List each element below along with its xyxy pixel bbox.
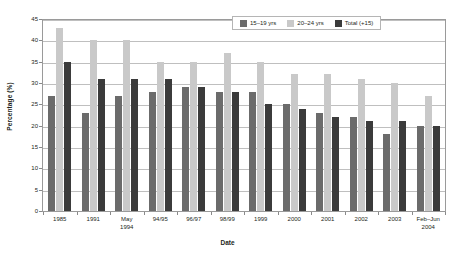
bar-group xyxy=(77,20,111,211)
bar xyxy=(56,28,63,211)
bars-layer xyxy=(43,20,445,211)
y-tick-label: 40 xyxy=(16,37,38,43)
bar xyxy=(190,62,197,211)
y-tick-label: 0 xyxy=(16,208,38,214)
y-tick-label: 25 xyxy=(16,101,38,107)
y-tick-label: 15 xyxy=(16,144,38,150)
y-tick-label: 20 xyxy=(16,123,38,129)
chart-legend: 15–19 yrs20–24 yrsTotal (+15) xyxy=(232,16,381,30)
bar-group xyxy=(177,20,211,211)
bar xyxy=(157,62,164,211)
bar xyxy=(316,113,323,211)
x-tick-mark xyxy=(311,212,312,215)
bar-group xyxy=(378,20,412,211)
bar xyxy=(224,53,231,211)
bar xyxy=(82,113,89,211)
bar xyxy=(291,74,298,211)
bar xyxy=(358,79,365,211)
y-tick-label: 45 xyxy=(16,16,38,22)
x-tick-mark xyxy=(211,212,212,215)
bar xyxy=(383,134,390,211)
x-tick-mark xyxy=(412,212,413,215)
x-tick-mark xyxy=(345,212,346,215)
bar-group xyxy=(144,20,178,211)
legend-label: Total (+15) xyxy=(345,20,374,26)
bar xyxy=(366,121,373,211)
x-tick-mark xyxy=(43,212,44,215)
bar xyxy=(232,92,239,211)
x-tick-mark xyxy=(77,212,78,215)
y-axis-title: Percentage (%) xyxy=(2,0,16,212)
legend-item: Total (+15) xyxy=(335,20,374,27)
legend-swatch-icon xyxy=(335,20,342,27)
bar xyxy=(350,117,357,211)
y-tick-label: 35 xyxy=(16,59,38,65)
bar xyxy=(391,83,398,211)
bar xyxy=(216,92,223,211)
bar xyxy=(98,79,105,211)
bar xyxy=(283,104,290,211)
bar xyxy=(425,96,432,211)
bar xyxy=(299,109,306,211)
bar xyxy=(149,92,156,211)
bar xyxy=(123,40,130,211)
x-tick-mark xyxy=(244,212,245,215)
bar-group xyxy=(311,20,345,211)
legend-label: 20–24 yrs xyxy=(297,20,323,26)
bar xyxy=(198,87,205,211)
bar xyxy=(257,62,264,211)
bar xyxy=(265,104,272,211)
bar xyxy=(332,117,339,211)
x-tick-mark xyxy=(144,212,145,215)
bar xyxy=(182,87,189,211)
bar xyxy=(165,79,172,211)
x-tick-mark xyxy=(445,212,446,215)
x-tick-label: Feb–Jun2004 xyxy=(398,216,455,231)
y-tick-label: 10 xyxy=(16,165,38,171)
bar xyxy=(131,79,138,211)
legend-swatch-icon xyxy=(287,20,294,27)
bar xyxy=(64,62,71,211)
legend-item: 20–24 yrs xyxy=(287,20,323,27)
y-axis-title-text: Percentage (%) xyxy=(6,82,13,130)
bar-group xyxy=(412,20,446,211)
bar-group xyxy=(211,20,245,211)
legend-swatch-icon xyxy=(240,20,247,27)
bar xyxy=(417,126,424,211)
x-tick-label-line: Feb–Jun xyxy=(398,216,455,224)
legend-label: 15–19 yrs xyxy=(250,20,276,26)
bar-group xyxy=(43,20,77,211)
bar-group xyxy=(278,20,312,211)
x-tick-mark xyxy=(110,212,111,215)
bar xyxy=(115,96,122,211)
y-tick-label: 30 xyxy=(16,80,38,86)
bar-chart: Percentage (%) 051015202530354045 198519… xyxy=(0,0,455,258)
bar-group xyxy=(110,20,144,211)
x-axis-title: Date xyxy=(0,239,455,246)
x-tick-label-line: 2004 xyxy=(398,224,455,232)
bar xyxy=(249,92,256,211)
bar xyxy=(90,40,97,211)
x-tick-label-line: 1994 xyxy=(97,224,157,232)
bar xyxy=(324,74,331,211)
bar-group xyxy=(244,20,278,211)
legend-item: 15–19 yrs xyxy=(240,20,276,27)
x-tick-mark xyxy=(177,212,178,215)
y-tick-label: 5 xyxy=(16,187,38,193)
bar xyxy=(48,96,55,211)
bar-group xyxy=(345,20,379,211)
x-tick-mark xyxy=(278,212,279,215)
x-tick-mark xyxy=(378,212,379,215)
bar xyxy=(399,121,406,211)
bar xyxy=(433,126,440,211)
